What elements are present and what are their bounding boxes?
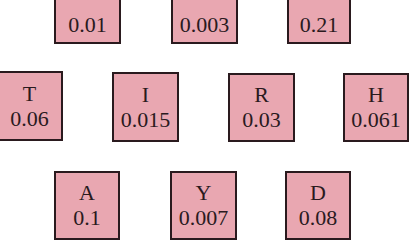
node-1: 0.01: [54, 0, 121, 44]
node-probability: 0.061: [351, 109, 401, 131]
node-A: A 0.1: [54, 171, 120, 240]
node-probability: 0.015: [121, 109, 171, 131]
node-probability: 0.21: [300, 14, 339, 36]
node-letter: A: [79, 182, 95, 204]
node-3: 0.21: [287, 0, 351, 44]
node-probability: 0.06: [10, 108, 49, 130]
node-letter: I: [142, 84, 149, 106]
node-probability: 0.08: [299, 207, 338, 229]
node-2: 0.003: [171, 0, 238, 44]
node-H: H 0.061: [343, 73, 409, 142]
node-Y: Y 0.007: [170, 171, 237, 240]
node-probability: 0.01: [68, 14, 107, 36]
node-probability: 0.003: [180, 14, 230, 36]
node-probability: 0.007: [179, 207, 229, 229]
node-letter: T: [23, 83, 36, 105]
node-T: T 0.06: [0, 71, 63, 141]
node-R: R 0.03: [228, 73, 295, 142]
node-letter: D: [310, 182, 326, 204]
node-letter: Y: [196, 182, 212, 204]
node-letter: R: [254, 84, 269, 106]
node-I: I 0.015: [112, 72, 179, 142]
node-letter: H: [368, 84, 384, 106]
node-D: D 0.08: [285, 171, 351, 240]
node-probability: 0.03: [242, 109, 281, 131]
node-probability: 0.1: [73, 207, 101, 229]
